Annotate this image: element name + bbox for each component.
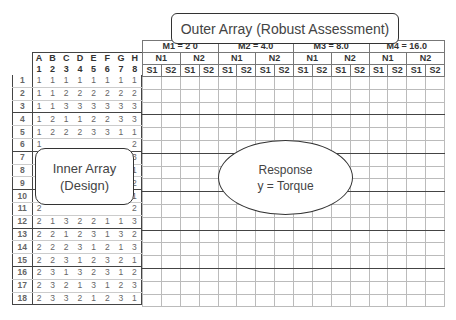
- response-cell[interactable]: [256, 294, 275, 307]
- response-cell[interactable]: [369, 243, 388, 256]
- response-cell[interactable]: [350, 281, 369, 294]
- response-cell[interactable]: [143, 166, 162, 179]
- response-cell[interactable]: [143, 281, 162, 294]
- response-cell[interactable]: [350, 140, 369, 153]
- response-cell[interactable]: [275, 243, 294, 256]
- response-cell[interactable]: [237, 102, 256, 115]
- response-cell[interactable]: [350, 256, 369, 269]
- response-cell[interactable]: [143, 115, 162, 128]
- response-cell[interactable]: [369, 230, 388, 243]
- response-cell[interactable]: [180, 268, 199, 281]
- response-cell[interactable]: [180, 230, 199, 243]
- response-cell[interactable]: [180, 140, 199, 153]
- response-cell[interactable]: [350, 294, 369, 307]
- response-cell[interactable]: [312, 217, 331, 230]
- response-cell[interactable]: [426, 281, 445, 294]
- response-cell[interactable]: [312, 243, 331, 256]
- response-cell[interactable]: [294, 256, 313, 269]
- response-cell[interactable]: [426, 128, 445, 141]
- response-cell[interactable]: [237, 217, 256, 230]
- response-cell[interactable]: [161, 268, 180, 281]
- response-cell[interactable]: [161, 166, 180, 179]
- response-cell[interactable]: [180, 115, 199, 128]
- response-cell[interactable]: [369, 77, 388, 90]
- response-cell[interactable]: [331, 115, 350, 128]
- response-cell[interactable]: [426, 77, 445, 90]
- response-cell[interactable]: [199, 153, 218, 166]
- response-cell[interactable]: [180, 179, 199, 192]
- response-cell[interactable]: [237, 89, 256, 102]
- response-cell[interactable]: [180, 294, 199, 307]
- response-cell[interactable]: [275, 89, 294, 102]
- response-cell[interactable]: [350, 153, 369, 166]
- response-cell[interactable]: [312, 294, 331, 307]
- response-cell[interactable]: [407, 140, 426, 153]
- response-cell[interactable]: [237, 281, 256, 294]
- response-cell[interactable]: [237, 115, 256, 128]
- response-cell[interactable]: [407, 243, 426, 256]
- response-cell[interactable]: [237, 230, 256, 243]
- response-cell[interactable]: [218, 243, 237, 256]
- response-cell[interactable]: [426, 217, 445, 230]
- response-cell[interactable]: [426, 89, 445, 102]
- response-cell[interactable]: [350, 128, 369, 141]
- response-cell[interactable]: [388, 268, 407, 281]
- response-cell[interactable]: [350, 217, 369, 230]
- response-cell[interactable]: [161, 204, 180, 217]
- response-cell[interactable]: [161, 217, 180, 230]
- response-cell[interactable]: [161, 281, 180, 294]
- response-cell[interactable]: [369, 140, 388, 153]
- response-cell[interactable]: [350, 204, 369, 217]
- response-cell[interactable]: [256, 77, 275, 90]
- response-cell[interactable]: [294, 243, 313, 256]
- response-cell[interactable]: [237, 77, 256, 90]
- response-cell[interactable]: [388, 281, 407, 294]
- response-cell[interactable]: [199, 230, 218, 243]
- response-cell[interactable]: [161, 89, 180, 102]
- response-cell[interactable]: [294, 115, 313, 128]
- response-cell[interactable]: [369, 102, 388, 115]
- response-cell[interactable]: [407, 281, 426, 294]
- response-cell[interactable]: [407, 102, 426, 115]
- response-cell[interactable]: [407, 268, 426, 281]
- response-cell[interactable]: [312, 256, 331, 269]
- response-cell[interactable]: [143, 230, 162, 243]
- response-cell[interactable]: [369, 153, 388, 166]
- response-cell[interactable]: [426, 115, 445, 128]
- response-cell[interactable]: [388, 140, 407, 153]
- response-cell[interactable]: [199, 179, 218, 192]
- response-cell[interactable]: [350, 77, 369, 90]
- response-cell[interactable]: [388, 294, 407, 307]
- response-cell[interactable]: [407, 179, 426, 192]
- response-cell[interactable]: [275, 77, 294, 90]
- response-cell[interactable]: [161, 140, 180, 153]
- response-cell[interactable]: [180, 153, 199, 166]
- response-cell[interactable]: [161, 294, 180, 307]
- response-cell[interactable]: [331, 230, 350, 243]
- response-cell[interactable]: [294, 217, 313, 230]
- response-cell[interactable]: [426, 256, 445, 269]
- response-cell[interactable]: [275, 102, 294, 115]
- response-cell[interactable]: [369, 204, 388, 217]
- response-cell[interactable]: [180, 102, 199, 115]
- response-cell[interactable]: [143, 89, 162, 102]
- response-cell[interactable]: [199, 256, 218, 269]
- response-cell[interactable]: [161, 179, 180, 192]
- response-cell[interactable]: [388, 115, 407, 128]
- response-cell[interactable]: [256, 102, 275, 115]
- response-cell[interactable]: [180, 166, 199, 179]
- response-cell[interactable]: [275, 115, 294, 128]
- response-cell[interactable]: [180, 89, 199, 102]
- response-cell[interactable]: [199, 77, 218, 90]
- response-cell[interactable]: [426, 192, 445, 205]
- response-cell[interactable]: [312, 115, 331, 128]
- response-cell[interactable]: [388, 77, 407, 90]
- response-cell[interactable]: [256, 230, 275, 243]
- response-cell[interactable]: [143, 192, 162, 205]
- response-cell[interactable]: [180, 128, 199, 141]
- response-cell[interactable]: [350, 230, 369, 243]
- response-cell[interactable]: [369, 281, 388, 294]
- response-cell[interactable]: [407, 115, 426, 128]
- response-cell[interactable]: [256, 243, 275, 256]
- response-cell[interactable]: [407, 77, 426, 90]
